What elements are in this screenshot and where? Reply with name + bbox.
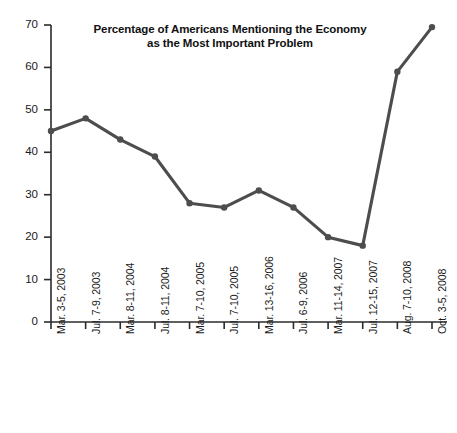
x-axis-tick-label-3: Jul. 8-11, 2004 (159, 267, 171, 334)
data-point-marker-3 (152, 153, 158, 159)
data-point-marker-4 (186, 200, 192, 206)
data-point-marker-0 (48, 128, 54, 134)
y-axis-tick-label-5: 50 (8, 104, 38, 115)
data-point-marker-11 (429, 24, 435, 30)
x-axis-tick-label-2: Mar. 8-11, 2004 (124, 263, 136, 334)
y-axis-tick-label-1: 10 (8, 274, 38, 285)
plot-area (0, 0, 457, 433)
x-axis-tick-label-11: Oct. 3-5, 2008 (436, 269, 448, 334)
data-point-marker-9 (360, 242, 366, 248)
chart-container: Percentage of Americans Mentioning the E… (0, 0, 457, 433)
y-axis-tick-label-3: 30 (8, 189, 38, 200)
x-axis-tick-label-9: Jul. 12-15, 2007 (367, 260, 379, 334)
y-axis-tick-label-2: 20 (8, 231, 38, 242)
x-axis-tick-label-5: Jul. 7-10, 2005 (228, 266, 240, 334)
y-axis-tick-label-4: 40 (8, 146, 38, 157)
y-axis-tick-label-6: 60 (8, 61, 38, 72)
data-point-marker-6 (256, 187, 262, 193)
data-point-marker-8 (325, 234, 331, 240)
data-point-marker-2 (117, 136, 123, 142)
data-point-marker-7 (290, 204, 296, 210)
x-axis-tick-label-4: Mar. 7-10, 2005 (194, 262, 206, 334)
x-axis-tick-label-8: Mar. 11-14, 2007 (332, 257, 344, 334)
x-axis-tick-label-10: Aug. 7-10, 2008 (401, 261, 413, 334)
data-point-marker-10 (394, 68, 400, 74)
data-point-marker-5 (221, 204, 227, 210)
axes-group (51, 25, 447, 322)
data-series-line (51, 27, 432, 246)
chart-svg (0, 0, 457, 433)
y-axis-tick-label-0: 0 (8, 316, 38, 327)
data-point-marker-1 (82, 115, 88, 121)
x-axis-tick-label-1: Jul. 7-9, 2003 (90, 272, 102, 334)
x-axis-tick-label-0: Mar. 3-5, 2003 (55, 268, 67, 334)
y-tick-marks (44, 25, 51, 322)
x-axis-tick-label-7: Jul. 6-9, 2006 (297, 272, 309, 334)
x-axis-tick-label-6: Mar. 13-16, 2006 (263, 256, 275, 334)
data-point-markers (48, 24, 435, 249)
y-axis-tick-label-7: 70 (8, 19, 38, 30)
